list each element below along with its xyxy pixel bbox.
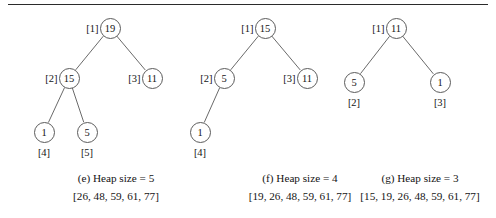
tree-edge [48, 88, 64, 123]
node-index-label: [3] [280, 73, 296, 84]
tree-node: 5 [77, 122, 98, 143]
node-index-label: [1] [238, 23, 254, 34]
tree-node: 1 [430, 72, 451, 93]
panel-array-text: [15, 19, 26, 48, 59, 61, 77] [330, 190, 496, 203]
horizontal-rule [8, 4, 488, 5]
tree-node: 11 [297, 68, 318, 89]
panel-array-text: [26, 48, 59, 61, 77] [26, 190, 206, 203]
tree-edge [231, 36, 259, 70]
tree-edge [117, 36, 145, 70]
tree-node: 1 [34, 122, 55, 143]
heapsort-figure: 19[1]15[2]11[3]1[4]5[5]15[1]5[2]11[3]1[4… [0, 0, 496, 218]
node-index-label: [5] [75, 147, 99, 158]
node-index-label: [1] [369, 23, 385, 34]
tree-node: 15 [255, 18, 276, 39]
tree-node: 15 [59, 68, 80, 89]
node-index-label: [2] [42, 73, 58, 84]
node-index-label: [4] [32, 147, 56, 158]
tree-edge [76, 36, 104, 70]
tree-edge [403, 36, 434, 74]
tree-edge [72, 88, 83, 122]
tree-node: 5 [344, 72, 365, 93]
node-index-label: [3] [125, 73, 141, 84]
tree-node: 11 [386, 18, 407, 39]
panel-caption: (e) Heap size = 5 [26, 172, 206, 185]
node-index-label: [2] [197, 73, 213, 84]
panel-caption: (g) Heap size = 3 [330, 172, 496, 185]
node-index-label: [1] [83, 23, 99, 34]
tree-edge [360, 36, 389, 73]
node-index-label: [3] [428, 97, 452, 108]
tree-node: 1 [190, 122, 211, 143]
node-index-label: [2] [342, 97, 366, 108]
tree-node: 11 [142, 68, 163, 89]
tree-node: 5 [214, 68, 235, 89]
tree-node: 19 [100, 18, 121, 39]
tree-edge [204, 88, 219, 123]
tree-edge [272, 36, 300, 70]
node-index-label: [4] [188, 147, 212, 158]
